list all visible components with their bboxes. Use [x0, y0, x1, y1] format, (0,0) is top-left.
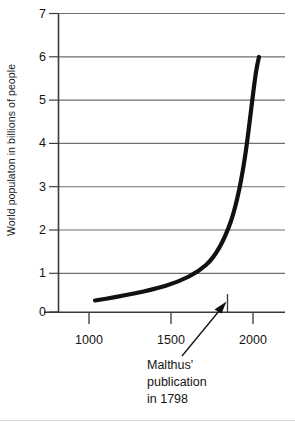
population-growth-chart: World populaton in billions of people	[0, 0, 295, 425]
x-axis-ticks	[89, 312, 253, 324]
y-tick-label-1: 1	[26, 266, 46, 280]
malthus-annotation: Malthus' publication in 1798	[147, 357, 207, 408]
population-curve	[95, 57, 259, 301]
footer-rule	[0, 420, 295, 421]
y-tick-label-4: 4	[26, 136, 46, 150]
y-tick-label-3: 3	[26, 180, 46, 194]
y-tick-label-5: 5	[26, 93, 46, 107]
malthus-annotation-line-1: Malthus'	[147, 357, 207, 374]
malthus-annotation-line-3: in 1798	[147, 391, 207, 408]
y-tick-label-0: 0	[26, 305, 46, 319]
y-tick-label-7: 7	[26, 7, 46, 21]
y-tick-label-6: 6	[26, 50, 46, 64]
x-tick-label-1500: 1500	[141, 333, 201, 347]
malthus-annotation-line-2: publication	[147, 374, 207, 391]
x-tick-label-2000: 2000	[223, 333, 283, 347]
y-tick-label-2: 2	[26, 223, 46, 237]
x-tick-label-1000: 1000	[59, 333, 119, 347]
y-axis-ticks	[49, 14, 58, 313]
gridlines	[58, 14, 285, 274]
malthus-arrow	[182, 302, 227, 357]
